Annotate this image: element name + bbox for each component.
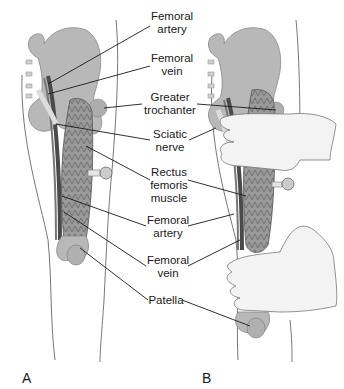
- label-femoral-artery-lower: Femoral artery: [146, 214, 190, 240]
- label-rectus-femoris-muscle: Rectus femoris muscle: [148, 166, 190, 205]
- panel-label-a: A: [22, 370, 31, 386]
- label-greater-trochanter: Greater trochanter: [142, 91, 198, 117]
- label-sciatic-nerve: Sciatic nerve: [150, 128, 190, 154]
- panel-label-b: B: [202, 370, 211, 386]
- label-femoral-artery-upper: Femoral artery: [150, 10, 194, 36]
- label-femoral-vein-upper: Femoral vein: [150, 52, 194, 78]
- label-femoral-vein-lower: Femoral vein: [146, 254, 190, 280]
- label-patella: Patella: [148, 294, 184, 307]
